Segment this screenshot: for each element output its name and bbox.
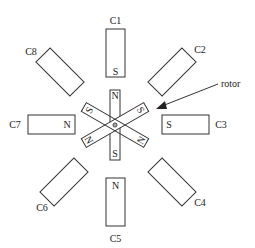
stator-coil-c6: C6 xyxy=(36,158,88,213)
stator-coil-c1: S C1 xyxy=(106,15,125,77)
stator-coil-c8: C8 xyxy=(25,46,84,96)
coil-c1-label: C1 xyxy=(110,15,122,26)
rotor-arm-vertical-top-pole: N xyxy=(111,90,118,101)
stator-coil-c7: N C7 xyxy=(9,115,75,134)
coil-c5-pole: N xyxy=(112,180,119,191)
stator-coil-c3: S C3 xyxy=(162,115,227,134)
coil-c2-label: C2 xyxy=(194,44,206,55)
coil-c1-pole: S xyxy=(113,66,119,77)
rotor-label: rotor xyxy=(221,78,241,89)
coil-c3-label: C3 xyxy=(215,119,227,130)
coil-c3-pole: S xyxy=(166,119,172,130)
stator-coil-c5: N C5 xyxy=(106,178,125,244)
stepper-motor-diagram: S C1 N C5 N C7 S C3 C2 C8 C4 C6 xyxy=(0,0,255,248)
coil-c6-label: C6 xyxy=(36,202,48,213)
coil-c7-label: C7 xyxy=(9,119,21,130)
rotor-arm-vertical-bottom-pole: S xyxy=(112,148,118,159)
coil-c5-label: C5 xyxy=(110,233,122,244)
coil-c4-label: C4 xyxy=(194,197,206,208)
coil-c7-pole: N xyxy=(63,119,70,130)
stator-coil-c2: C2 xyxy=(148,44,206,96)
stator-coil-c4: C4 xyxy=(148,158,206,208)
coil-c8-label: C8 xyxy=(25,46,37,57)
rotor-arrow-head-icon xyxy=(156,101,167,109)
rotor: N S S N S N xyxy=(81,90,148,160)
